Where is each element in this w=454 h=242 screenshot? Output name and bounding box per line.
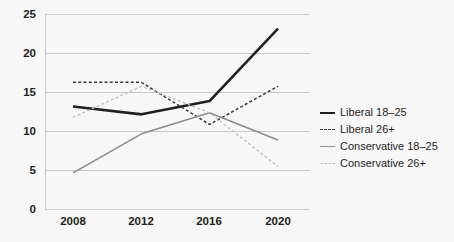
chart-legend: Liberal 18–25 Liberal 26+ Conservative 1… [320, 104, 454, 172]
legend-line-sample-icon [320, 106, 335, 118]
ytick-label-10: 10 [4, 125, 36, 137]
ytick-label-20: 20 [4, 47, 36, 59]
legend-line-sample-icon [320, 140, 335, 152]
series-line-2 [73, 113, 278, 173]
ytick-label-15: 15 [4, 86, 36, 98]
legend-item-label: Liberal 18–25 [340, 106, 407, 118]
series-layer [73, 29, 278, 173]
line-chart-figure: 25 20 15 10 5 0 2008 2012 2016 2020 Libe… [0, 0, 454, 242]
series-line-0 [73, 29, 278, 115]
legend-item-liberal-26-plus: Liberal 26+ [320, 121, 454, 137]
xtick-label-2008: 2008 [43, 215, 103, 227]
legend-item-liberal-18-25: Liberal 18–25 [320, 104, 454, 120]
xtick-label-2016: 2016 [179, 215, 239, 227]
legend-item-conservative-18-25: Conservative 18–25 [320, 138, 454, 154]
xtick-label-2012: 2012 [111, 215, 171, 227]
legend-dotted-line-sample-icon [320, 157, 335, 169]
legend-item-label: Liberal 26+ [340, 123, 395, 135]
ytick-label-25: 25 [4, 8, 36, 20]
legend-dashed-line-sample-icon [320, 123, 335, 135]
xtick-label-2020: 2020 [248, 215, 308, 227]
legend-item-label: Conservative 26+ [340, 157, 426, 169]
ytick-label-0: 0 [4, 203, 36, 215]
legend-item-conservative-26-plus: Conservative 26+ [320, 155, 454, 171]
ytick-label-5: 5 [4, 164, 36, 176]
legend-item-label: Conservative 18–25 [340, 140, 438, 152]
